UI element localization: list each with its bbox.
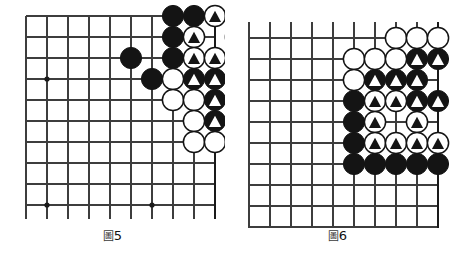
black-stone[interactable] [364, 69, 385, 90]
white-stone-disc [162, 89, 183, 110]
black-stone[interactable] [204, 89, 225, 110]
black-stone[interactable] [141, 68, 162, 89]
white-stone[interactable] [385, 48, 406, 69]
black-stone[interactable] [204, 110, 225, 131]
figure-6-caption-cjk: 圖 [328, 230, 339, 243]
black-stone[interactable] [162, 47, 183, 68]
black-stone[interactable] [343, 90, 364, 111]
white-stone[interactable] [427, 132, 448, 153]
black-stone-disc [183, 5, 204, 26]
white-stone-disc [385, 27, 406, 48]
black-stone[interactable] [162, 5, 183, 26]
white-stone[interactable] [385, 90, 406, 111]
black-stone[interactable] [183, 5, 204, 26]
black-stone[interactable] [343, 153, 364, 174]
black-stone[interactable] [406, 153, 427, 174]
white-stone[interactable] [183, 26, 204, 47]
black-stone[interactable] [406, 69, 427, 90]
black-stone-disc [427, 153, 448, 174]
white-stone[interactable] [204, 131, 225, 152]
figure-6-caption: 圖6 [225, 228, 450, 245]
white-stone[interactable] [183, 47, 204, 68]
white-stone-disc [343, 69, 364, 90]
stones-layer [343, 27, 448, 174]
black-stone-disc [385, 153, 406, 174]
star-point [44, 202, 49, 207]
star-point [44, 76, 49, 81]
white-stone[interactable] [162, 68, 183, 89]
black-stone[interactable] [427, 48, 448, 69]
black-stone-disc [364, 153, 385, 174]
white-stone-disc [183, 110, 204, 131]
black-stone[interactable] [183, 68, 204, 89]
go-board-figure-5 [0, 0, 225, 228]
black-stone-disc [120, 47, 141, 68]
white-stone[interactable] [204, 5, 225, 26]
white-stone[interactable] [343, 48, 364, 69]
go-diagram-pair: 圖5 圖6 [0, 0, 450, 261]
white-stone[interactable] [385, 132, 406, 153]
white-stone[interactable] [406, 27, 427, 48]
black-stone-disc [162, 47, 183, 68]
white-stone-disc [204, 131, 225, 152]
white-stone[interactable] [364, 111, 385, 132]
white-stone-disc [183, 131, 204, 152]
white-stone[interactable] [385, 27, 406, 48]
white-stone[interactable] [183, 110, 204, 131]
figure-6-container: 圖6 [225, 0, 450, 261]
white-stone[interactable] [364, 90, 385, 111]
white-stone-disc [343, 48, 364, 69]
black-stone[interactable] [343, 111, 364, 132]
black-stone[interactable] [406, 48, 427, 69]
figure-5-caption-number: 5 [114, 228, 122, 243]
black-stone-disc [406, 153, 427, 174]
black-stone-disc [162, 5, 183, 26]
black-stone-disc [343, 111, 364, 132]
white-stone[interactable] [183, 89, 204, 110]
black-stone[interactable] [120, 47, 141, 68]
black-stone[interactable] [385, 69, 406, 90]
white-stone[interactable] [183, 131, 204, 152]
white-stone-disc [162, 68, 183, 89]
white-stone-disc [385, 48, 406, 69]
black-stone[interactable] [343, 132, 364, 153]
white-stone-disc [406, 27, 427, 48]
black-stone[interactable] [162, 26, 183, 47]
black-stone[interactable] [427, 153, 448, 174]
white-stone-disc [183, 89, 204, 110]
white-stone[interactable] [364, 48, 385, 69]
white-stone-disc [364, 48, 385, 69]
figure-5-caption-cjk: 圖 [103, 230, 114, 243]
white-stone[interactable] [162, 89, 183, 110]
figure-5-container: 圖5 [0, 0, 225, 261]
black-stone-disc [162, 26, 183, 47]
figure-5-caption: 圖5 [0, 228, 225, 245]
black-stone-disc [343, 153, 364, 174]
white-stone-disc [427, 27, 448, 48]
black-stone[interactable] [364, 153, 385, 174]
black-stone[interactable] [406, 90, 427, 111]
white-stone[interactable] [406, 111, 427, 132]
white-stone[interactable] [427, 27, 448, 48]
black-stone-disc [343, 90, 364, 111]
white-stone[interactable] [343, 69, 364, 90]
black-stone[interactable] [385, 153, 406, 174]
go-board-figure-6 [225, 0, 450, 228]
white-stone[interactable] [406, 132, 427, 153]
star-point [149, 202, 154, 207]
black-stone[interactable] [427, 90, 448, 111]
black-stone-disc [141, 68, 162, 89]
white-stone[interactable] [364, 132, 385, 153]
go-board-svg-figure-5 [0, 0, 225, 228]
figure-6-caption-number: 6 [339, 228, 347, 243]
white-stone[interactable] [204, 47, 225, 68]
black-stone-disc [343, 132, 364, 153]
go-board-svg-figure-6 [225, 0, 450, 228]
black-stone[interactable] [204, 68, 225, 89]
